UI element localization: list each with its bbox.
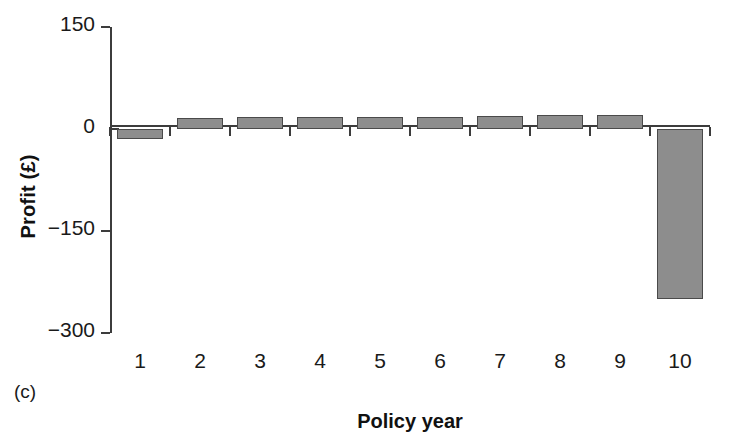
bar (597, 115, 643, 129)
y-axis-line (110, 27, 112, 333)
x-axis-tick (709, 127, 711, 136)
x-axis-tick-label: 7 (470, 349, 530, 373)
bar (417, 117, 463, 129)
y-axis-tick-label: −150 (25, 216, 95, 240)
x-axis-tick (409, 127, 411, 136)
bar (537, 115, 583, 129)
bar (657, 129, 703, 299)
y-axis-tick (101, 332, 110, 334)
x-axis-tick-label: 3 (230, 349, 290, 373)
x-axis-tick-label: 9 (590, 349, 650, 373)
bar (297, 117, 343, 129)
x-axis-tick-label: 4 (290, 349, 350, 373)
y-axis-tick-label: −300 (25, 318, 95, 342)
x-axis-tick (649, 127, 651, 136)
bar (237, 117, 283, 129)
chart-figure: Profit (£) 1500−150−300 12345678910 Poli… (0, 0, 753, 433)
x-axis-tick-label: 2 (170, 349, 230, 373)
bar (117, 129, 163, 139)
x-axis-tick-label: 8 (530, 349, 590, 373)
x-axis-tick-label: 10 (650, 349, 710, 373)
x-axis-tick (529, 127, 531, 136)
y-axis-tick-label: 150 (25, 12, 95, 36)
x-axis-tick (169, 127, 171, 136)
y-axis-tick-label: 0 (25, 114, 95, 138)
plot-area: 12345678910 Policy year (110, 27, 710, 333)
x-axis-tick (109, 127, 111, 136)
bar (177, 118, 223, 129)
y-axis-title: Profit (£) (17, 117, 40, 277)
x-axis-tick-label: 1 (110, 349, 170, 373)
x-axis-tick (229, 127, 231, 136)
x-axis-title: Policy year (110, 410, 710, 433)
x-axis-tick (349, 127, 351, 136)
bar (357, 117, 403, 129)
panel-label: (c) (14, 381, 36, 403)
x-axis-tick (589, 127, 591, 136)
x-axis-tick-label: 6 (410, 349, 470, 373)
y-axis-tick (101, 230, 110, 232)
bar (477, 116, 523, 129)
x-axis-tick (469, 127, 471, 136)
x-axis-tick (289, 127, 291, 136)
y-axis-tick (101, 26, 110, 28)
x-axis-tick-label: 5 (350, 349, 410, 373)
